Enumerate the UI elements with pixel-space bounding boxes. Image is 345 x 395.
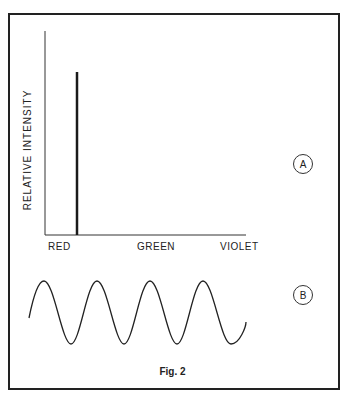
sine-wave-visible (29, 281, 246, 344)
panel-a-marker: A (293, 154, 313, 174)
y-axis-label: RELATIVE INTENSITY (22, 90, 33, 211)
figure-caption: Fig. 2 (0, 366, 345, 377)
panel-b-marker: B (293, 285, 313, 305)
sine-wave (29, 281, 247, 344)
x-label-violet: VIOLET (220, 241, 259, 252)
x-label-green: GREEN (137, 241, 175, 252)
figure-graphics (0, 0, 345, 395)
x-label-red: RED (48, 241, 71, 252)
